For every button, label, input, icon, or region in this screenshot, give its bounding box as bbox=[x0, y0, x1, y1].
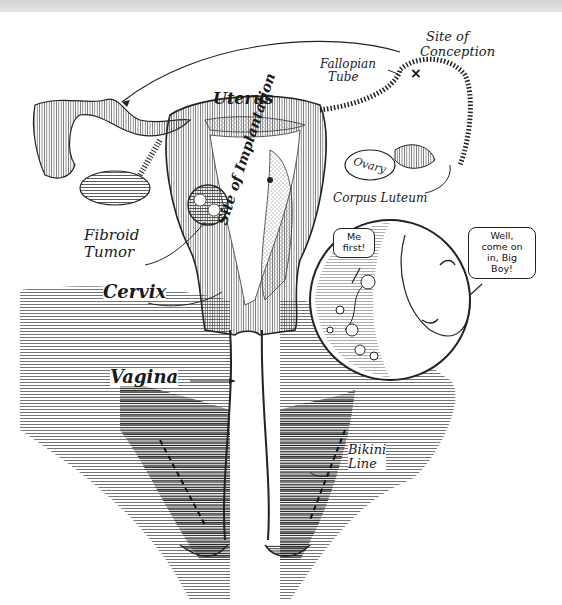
label-line: Tumor bbox=[84, 245, 139, 260]
label-line: Tube bbox=[320, 71, 376, 83]
label-fibroid-tumor: Fibroid Tumor bbox=[84, 228, 139, 260]
label-line: Line bbox=[348, 457, 386, 470]
label-line: Fibroid bbox=[84, 228, 139, 243]
label-line: Site of bbox=[420, 30, 495, 43]
label-corpus-luteum: Corpus Luteum bbox=[333, 192, 427, 204]
label-vagina: Vagina bbox=[110, 368, 178, 386]
fallopian-leader bbox=[388, 70, 398, 74]
anatomy-illustration: × bbox=[0, 0, 562, 605]
conception-mark-icon: × bbox=[410, 65, 422, 81]
label-cervix: Cervix bbox=[103, 283, 166, 301]
speech-bubble-egg: Well, come on in, Big Boy! bbox=[468, 227, 536, 279]
label-line: Conception bbox=[420, 45, 495, 58]
bubble-line: Boy! bbox=[473, 264, 531, 275]
bubble-line: first! bbox=[338, 243, 370, 254]
speech-bubble-sperm: Me first! bbox=[333, 228, 375, 258]
label-fallopian-tube: Fallopian Tube bbox=[320, 58, 376, 83]
label-line: Fallopian bbox=[320, 58, 376, 70]
label-bikini-line: Bikini Line bbox=[348, 443, 386, 470]
implantation-site-dot bbox=[267, 177, 273, 183]
label-line: Bikini bbox=[348, 443, 386, 456]
corpus-luteum-leader bbox=[425, 165, 450, 193]
label-site-of-conception: Site of Conception bbox=[420, 30, 495, 58]
